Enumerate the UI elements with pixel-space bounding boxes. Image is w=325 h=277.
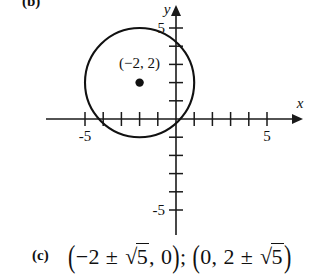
answer-expression: (−2 ± √5, 0); (0, 2 ± √5): [68, 243, 292, 270]
close-paren-2: ): [284, 238, 292, 276]
circle-center-point: [135, 78, 143, 86]
x-axis-negative-five-label: -5: [79, 128, 92, 144]
part-c-label: (c): [32, 247, 49, 264]
answer-term-2: 0, 2 ±: [200, 244, 259, 269]
x-axis-positive-five-label: 5: [263, 128, 271, 144]
open-paren-1: (: [68, 238, 76, 276]
x-axis-name-label: x: [296, 95, 304, 111]
answer-semicolon: ;: [180, 244, 192, 269]
answer-comma-zero: , 0: [149, 244, 172, 269]
radical-2: √5: [259, 243, 284, 270]
open-paren-2: (: [192, 238, 200, 276]
radicand-1: 5: [136, 243, 149, 270]
x-axis-arrow: [292, 114, 303, 124]
close-paren-1: ): [172, 238, 180, 276]
coordinate-graph: (−2, 2) -5 5 5 -5 x y: [0, 0, 325, 240]
circle-center-label: (−2, 2): [119, 55, 160, 72]
answer-term-1: −2 ±: [76, 244, 124, 269]
y-axis-negative-five-label: -5: [153, 202, 166, 218]
figure-container: (b): [0, 0, 325, 277]
y-axis-arrow: [171, 5, 181, 16]
radicand-2: 5: [271, 243, 284, 270]
y-axis-name-label: y: [162, 1, 171, 17]
radical-1: √5: [124, 243, 149, 270]
y-axis-positive-five-label: 5: [158, 20, 166, 36]
